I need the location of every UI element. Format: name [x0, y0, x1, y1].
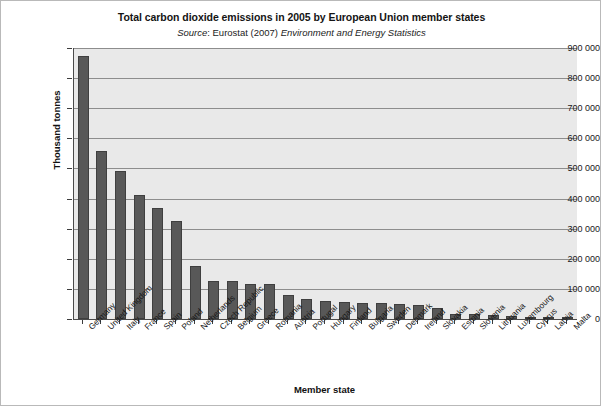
- x-tick-mark: [82, 320, 83, 324]
- bar: [115, 171, 126, 319]
- x-label-slot: Portugal: [297, 325, 316, 383]
- y-tick-mark: [67, 138, 72, 139]
- x-label-slot: Cyprus: [520, 325, 539, 383]
- bar-slot: [521, 48, 540, 319]
- y-tick-label: 200 000: [538, 254, 600, 264]
- y-tick-label: 100 000: [538, 284, 600, 294]
- bar-slot: [447, 48, 466, 319]
- y-tick-label: 800 000: [538, 73, 600, 83]
- x-label-slot: Slovakia: [427, 325, 446, 383]
- bar-slot: [372, 48, 391, 319]
- x-label-slot: United Kingdom: [92, 325, 111, 383]
- y-tick-label: 400 000: [538, 194, 600, 204]
- x-label-slot: Latvia: [539, 325, 558, 383]
- x-label-slot: Czech Republic: [203, 325, 222, 383]
- bar-slot: [502, 48, 521, 319]
- bar-slot: [465, 48, 484, 319]
- bar-slot: [428, 48, 447, 319]
- y-tick-mark: [67, 289, 72, 290]
- x-label-slot: Denmark: [390, 325, 409, 383]
- x-label-slot: Slovenia: [464, 325, 483, 383]
- bar-slot: [167, 48, 186, 319]
- chart-subtitle: Source: Eurostat (2007) Environment and …: [1, 27, 601, 38]
- y-tick-mark: [67, 229, 72, 230]
- bar-slot: [353, 48, 372, 319]
- bar-slot: [335, 48, 354, 319]
- x-label-slot: Greece: [241, 325, 260, 383]
- y-tick-label: 900 000: [538, 43, 600, 53]
- x-label-slot: Netherlands: [185, 325, 204, 383]
- bar-slot: [316, 48, 335, 319]
- x-label-slot: Lithuania: [483, 325, 502, 383]
- x-label-slot: Sweden: [371, 325, 390, 383]
- x-label-slot: Romania: [259, 325, 278, 383]
- y-tick-label: 300 000: [538, 224, 600, 234]
- plot-area: [73, 48, 577, 320]
- subtitle-source-label: Source: [177, 27, 207, 38]
- subtitle-source-body: Eurostat (2007): [213, 27, 281, 38]
- bar-slot: [186, 48, 205, 319]
- x-axis-labels: GermanyUnited KingdomItalyFranceSpainPol…: [73, 325, 576, 383]
- bar: [152, 208, 163, 319]
- bar-slot: [149, 48, 168, 319]
- x-label-slot: Belgium: [222, 325, 241, 383]
- chart-title: Total carbon dioxide emissions in 2005 b…: [1, 11, 601, 23]
- y-tick-mark: [67, 259, 72, 260]
- y-tick-label: 600 000: [538, 133, 600, 143]
- y-tick-mark: [67, 108, 72, 109]
- bar-slot: [484, 48, 503, 319]
- bar-slot: [409, 48, 428, 319]
- y-tick-mark: [67, 199, 72, 200]
- bar: [171, 221, 182, 319]
- bar-slot: [111, 48, 130, 319]
- bar-slot: [391, 48, 410, 319]
- x-label-slot: Spain: [148, 325, 167, 383]
- bar-slot: [540, 48, 559, 319]
- bar-slot: [74, 48, 93, 319]
- x-label-slot: Ireland: [408, 325, 427, 383]
- bar-slot: [558, 48, 577, 319]
- y-tick-mark: [67, 48, 72, 49]
- y-tick-label: 500 000: [538, 163, 600, 173]
- bar-slot: [223, 48, 242, 319]
- x-label-slot: Hungary: [315, 325, 334, 383]
- y-axis-title: Thousand tonnes: [51, 90, 62, 169]
- bar-slot: [242, 48, 261, 319]
- bar-slot: [130, 48, 149, 319]
- x-label-slot: Italy: [110, 325, 129, 383]
- bar-series: [74, 48, 577, 319]
- bar: [78, 56, 89, 319]
- x-label-slot: Malta: [557, 325, 576, 383]
- y-tick-label: 0: [538, 314, 600, 324]
- y-axis-title-wrap: Thousand tonnes: [46, 70, 64, 190]
- bar: [96, 151, 107, 319]
- x-label-slot: Finland: [334, 325, 353, 383]
- x-label-slot: Bulgaria: [352, 325, 371, 383]
- bar-slot: [93, 48, 112, 319]
- y-tick-mark: [67, 168, 72, 169]
- x-label-slot: Germany: [73, 325, 92, 383]
- x-label-slot: Austria: [278, 325, 297, 383]
- subtitle-source-italic: Environment and Energy Statistics: [281, 27, 426, 38]
- bar-slot: [204, 48, 223, 319]
- bar-slot: [260, 48, 279, 319]
- x-label-slot: Estonia: [446, 325, 465, 383]
- bar-slot: [279, 48, 298, 319]
- x-label-slot: Poland: [166, 325, 185, 383]
- x-label-slot: Luxembourg: [501, 325, 520, 383]
- y-tick-mark: [67, 78, 72, 79]
- y-tick-mark: [67, 319, 72, 320]
- x-label-slot: France: [129, 325, 148, 383]
- y-tick-label: 700 000: [538, 103, 600, 113]
- x-axis-title: Member state: [73, 384, 576, 395]
- bar-slot: [298, 48, 317, 319]
- chart-figure: Total carbon dioxide emissions in 2005 b…: [0, 0, 601, 406]
